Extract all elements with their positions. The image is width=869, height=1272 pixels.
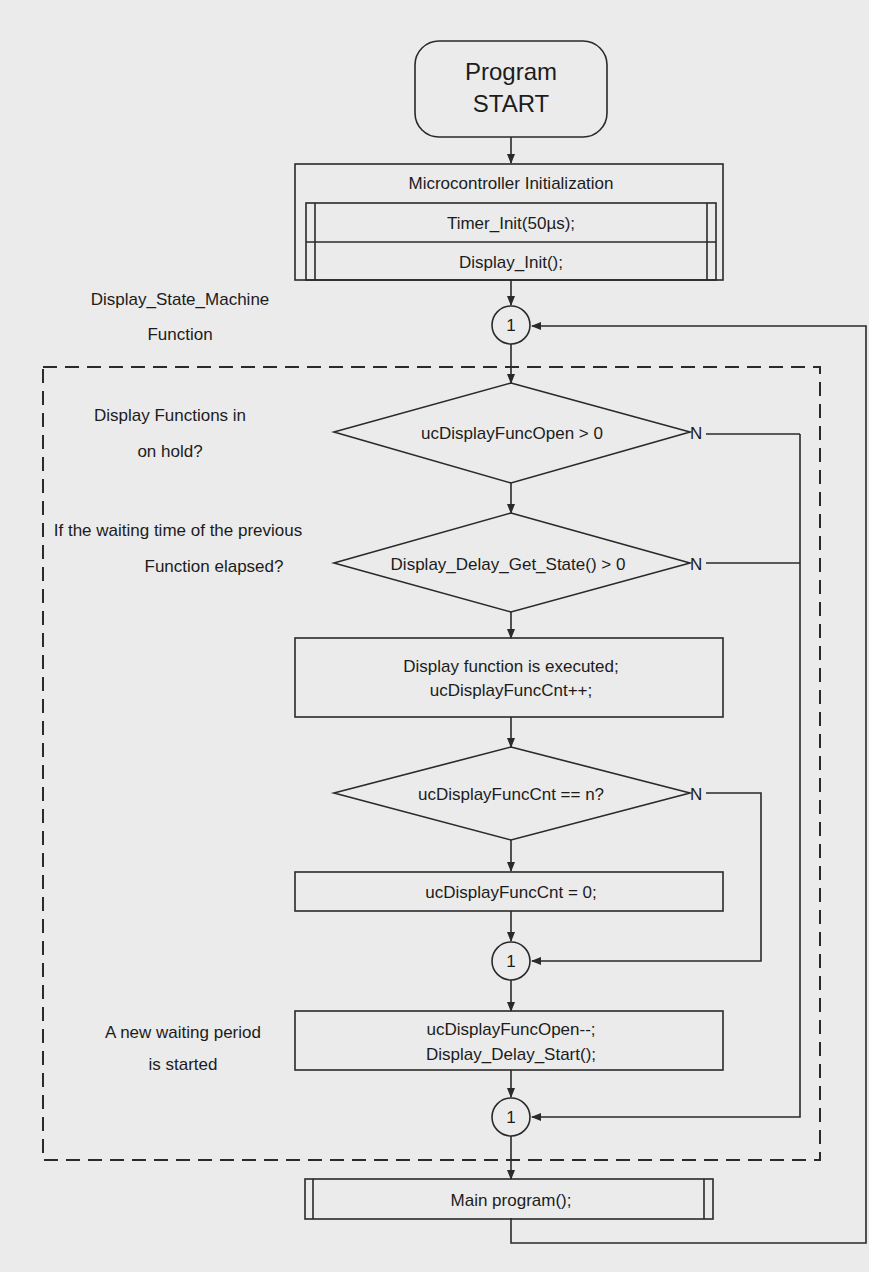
execute-line-1: Display function is executed;	[403, 657, 618, 676]
annotation-hold-2: on hold?	[137, 442, 202, 461]
process-execute	[295, 638, 723, 717]
decision-1-text: ucDisplayFuncOpen > 0	[421, 424, 603, 443]
annotation-waiting-1: If the waiting time of the previous	[54, 521, 303, 540]
annotation-state-machine-2: Function	[147, 325, 212, 344]
connector-label: 1	[506, 952, 515, 971]
init-step-display: Display_Init();	[459, 253, 563, 272]
main-program-text: Main program();	[451, 1191, 572, 1210]
annotation-new-wait-2: is started	[149, 1055, 218, 1074]
start-label-2: START	[473, 90, 550, 117]
start-label-1: Program	[465, 58, 557, 85]
annotation-hold-1: Display Functions in	[94, 406, 246, 425]
decision-2-text: Display_Delay_Get_State() > 0	[391, 555, 626, 574]
execute-line-2: ucDisplayFuncCnt++;	[430, 681, 593, 700]
annotation-waiting-2: Function elapsed?	[145, 557, 284, 576]
annotation-new-wait-1: A new waiting period	[105, 1023, 261, 1042]
decision-3-no-label: N	[690, 785, 702, 804]
connector-label: 1	[506, 316, 515, 335]
reset-text: ucDisplayFuncCnt = 0;	[425, 883, 597, 902]
start-terminal	[415, 41, 607, 137]
annotation-state-machine-1: Display_State_Machine	[91, 290, 270, 309]
decision-3-text: ucDisplayFuncCnt == n?	[418, 785, 604, 804]
connector-label: 1	[506, 1108, 515, 1127]
flowchart-canvas: Program START Microcontroller Initializa…	[0, 0, 869, 1272]
init-step-timer: Timer_Init(50µs);	[447, 214, 575, 233]
decision-1-no-label: N	[690, 424, 702, 443]
init-title: Microcontroller Initialization	[408, 174, 613, 193]
start-wait-line-2: Display_Delay_Start();	[426, 1045, 596, 1064]
decision-2-no-label: N	[690, 555, 702, 574]
start-wait-line-1: ucDisplayFuncOpen--;	[426, 1020, 595, 1039]
